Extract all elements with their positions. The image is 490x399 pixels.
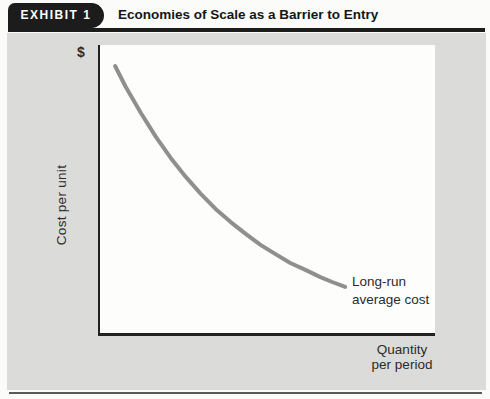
bottom-rule [9, 392, 482, 394]
x-axis-label: Quantity per period [372, 342, 433, 372]
exhibit-title: Economies of Scale as a Barrier to Entry [118, 7, 378, 22]
lrac-curve [115, 66, 345, 287]
exhibit-figure: EXHIBIT 1 Economies of Scale as a Barrie… [0, 0, 490, 399]
header-rule [8, 28, 485, 32]
curve-label: Long-run average cost [352, 273, 429, 309]
exhibit-badge: EXHIBIT 1 [8, 3, 104, 28]
y-axis-label: Cost per unit [54, 165, 69, 245]
dollar-sign-label: $ [77, 44, 85, 60]
x-axis-line [98, 333, 435, 336]
